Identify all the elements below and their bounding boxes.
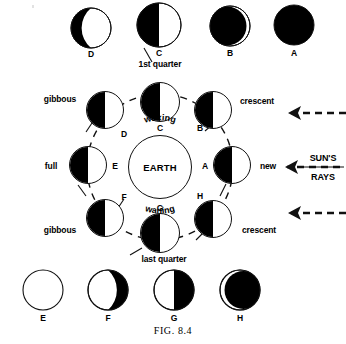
orbit-moon-A[interactable] bbox=[213, 146, 251, 184]
top-moon-B-art bbox=[208, 6, 251, 46]
orbit-moon-G-label: G bbox=[157, 204, 164, 213]
top-moon-D-label: D bbox=[88, 50, 94, 59]
bottom-moon-G-art bbox=[154, 270, 194, 310]
earth-circle: EARTH bbox=[128, 135, 192, 199]
figure-caption-text: FIG. 8.4 bbox=[154, 325, 192, 336]
bottom-moon-F-label: F bbox=[105, 314, 110, 323]
top-moon-C-label: C bbox=[156, 49, 162, 58]
moon-shadow bbox=[195, 201, 213, 237]
sun-ray-arrow-bottom bbox=[288, 206, 346, 220]
top-moon-A-art bbox=[274, 5, 314, 45]
top-moon-D-art bbox=[71, 8, 111, 48]
phase-label-full: full bbox=[45, 162, 57, 171]
bottom-moon-E-label: E bbox=[40, 314, 46, 323]
phase-label-gibbous-waxing: gibbous bbox=[44, 95, 76, 104]
top-moon-C-art bbox=[137, 3, 181, 47]
phase-label-crescent-waxing: crescent bbox=[240, 97, 274, 106]
orbit-moon-E-label: E bbox=[112, 162, 118, 171]
bottom-moon-F-art bbox=[88, 270, 128, 310]
sun-ray-arrow-top bbox=[288, 106, 346, 120]
orbit-moon-A-label: A bbox=[202, 162, 208, 171]
orbit-moon-D-label: D bbox=[121, 130, 127, 139]
earth-label: EARTH bbox=[143, 162, 177, 173]
sun-rays-label-bottom: RAYS bbox=[311, 173, 335, 182]
phase-label-first-quarter: 1st quarter bbox=[139, 60, 182, 69]
orbit-moon-G[interactable] bbox=[140, 213, 180, 253]
orbit-moon-B-label: B bbox=[197, 124, 203, 133]
orbit-moon-H-label: H bbox=[197, 192, 203, 201]
orbit-moon-C[interactable] bbox=[140, 82, 180, 122]
sun-rays-label-top: SUN'S bbox=[310, 154, 337, 163]
orbit-moon-E[interactable] bbox=[69, 146, 107, 184]
orbit-moon-D[interactable] bbox=[86, 91, 124, 129]
figure-caption: FIG. 8.4 bbox=[0, 325, 346, 336]
moon-shadow bbox=[141, 83, 160, 121]
bottom-moon-H-label: H bbox=[237, 314, 243, 323]
phase-label-new: new bbox=[260, 162, 276, 171]
bottom-moon-G-label: G bbox=[171, 314, 178, 323]
bottom-moon-H-art bbox=[220, 270, 263, 310]
moon-shadow bbox=[70, 147, 88, 183]
phase-label-crescent-waning: crescent bbox=[242, 226, 276, 235]
moon-shadow bbox=[87, 92, 105, 128]
moon-shadow bbox=[87, 200, 105, 236]
moon-shadow bbox=[214, 147, 232, 183]
top-moon-B-label: B bbox=[227, 49, 233, 58]
orbit-moon-H[interactable] bbox=[194, 200, 232, 238]
phase-label-gibbous-waning: gibbous bbox=[44, 226, 76, 235]
phase-label-last-quarter: last quarter bbox=[141, 255, 186, 264]
moon-shadow bbox=[141, 214, 160, 252]
sun-rays-group bbox=[285, 106, 346, 220]
bottom-moon-E-art bbox=[23, 270, 63, 310]
top-moon-A-label: A bbox=[291, 49, 297, 58]
orbit-moon-C-label: C bbox=[157, 124, 163, 133]
orbit-moon-F-label: F bbox=[121, 193, 126, 202]
orbit-moon-F[interactable] bbox=[86, 199, 124, 237]
moon-phases-figure: EARTH waxing waning D C B A E F G H C B … bbox=[0, 0, 346, 344]
